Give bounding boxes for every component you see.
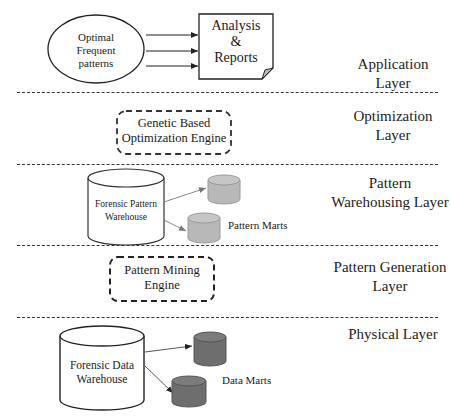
data-mart-cylinder-1 <box>194 332 226 366</box>
genetic-engine-label: Genetic Based Optimization Engine <box>117 116 231 146</box>
forensic-data-warehouse-label: Forensic Data Warehouse <box>60 358 144 386</box>
pattern-mining-engine-label: Pattern Mining Engine <box>110 263 214 293</box>
pattern-mart-cylinder-1 <box>208 175 240 204</box>
divider-optimization-warehousing <box>17 164 438 165</box>
arrows-to-reports <box>146 35 198 66</box>
layer-label-pattern-generation: Pattern Generation Layer <box>328 258 451 296</box>
layer-label-physical: Physical Layer <box>338 325 448 344</box>
optimal-patterns-label: Optimal Frequent patterns <box>60 31 132 70</box>
pattern-marts-label: Pattern Marts <box>228 219 298 232</box>
divider-warehousing-generation <box>17 245 438 246</box>
forensic-pattern-warehouse-label: Forensic Pattern Warehouse <box>88 198 164 224</box>
layer-label-optimization: Optimization Layer <box>338 107 448 145</box>
data-marts-label: Data Marts <box>222 374 292 387</box>
divider-generation-physical <box>17 317 438 318</box>
layer-label-application: Application Layer <box>338 55 448 93</box>
data-mart-cylinder-2 <box>172 376 206 407</box>
pattern-mart-cylinder-2 <box>188 213 220 243</box>
analysis-reports-label: Analysis & Reports <box>199 18 273 66</box>
layer-label-pattern-warehousing: Pattern Warehousing Layer <box>330 174 450 212</box>
